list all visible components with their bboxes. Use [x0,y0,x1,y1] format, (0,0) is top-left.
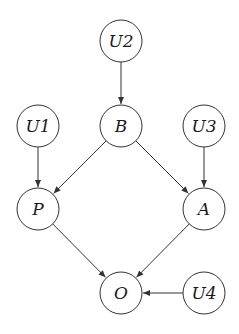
edges [38,62,204,293]
node-u2: U2 [100,20,142,62]
edge-b-to-p [54,141,107,194]
node-label: O [114,283,128,303]
node-label: U2 [108,31,133,51]
causal-graph: U2U1BU3PAOU4 [0,0,239,334]
node-u3: U3 [183,105,225,147]
edge-b-to-a [136,141,189,194]
node-label: B [114,116,128,136]
node-o: O [100,272,142,314]
edge-p-to-o [53,224,106,277]
node-label: U3 [191,116,216,136]
node-label: U1 [25,116,50,136]
node-u4: U4 [183,272,225,314]
node-p: P [17,188,59,230]
node-label: U4 [191,283,216,303]
node-a: A [183,188,225,230]
node-label: A [196,199,210,219]
node-label: P [31,199,44,219]
edge-a-to-o [136,224,189,277]
node-u1: U1 [17,105,59,147]
node-b: B [100,105,142,147]
